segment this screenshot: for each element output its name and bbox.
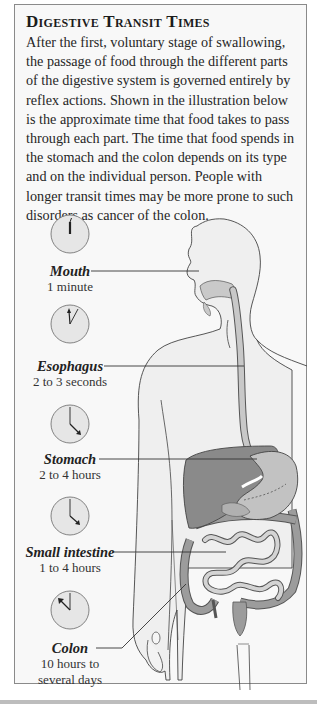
clock-icon: [50, 590, 90, 630]
stage-time: 1 to 4 hours: [20, 560, 120, 576]
stage-name: Small intestine: [20, 544, 120, 560]
stage-time: 2 to 3 seconds: [20, 374, 120, 390]
stage-name: Mouth: [20, 263, 120, 279]
stage-time: 1 minute: [20, 279, 120, 295]
clock-icon: [50, 214, 90, 254]
clock-icon: [50, 404, 90, 444]
stage-time: several days: [20, 672, 120, 688]
stage-time: 10 hours to: [20, 656, 120, 672]
stage-mouth: Mouth 1 minute: [20, 263, 120, 295]
stage-colon: Colon 10 hours to several days: [20, 640, 120, 688]
stage-time: 2 to 4 hours: [20, 467, 120, 483]
stage-name: Colon: [20, 640, 120, 656]
stage-esophagus: Esophagus 2 to 3 seconds: [20, 358, 120, 390]
stage-name: Esophagus: [20, 358, 120, 374]
clock-icon: [50, 304, 90, 344]
stage-small-intestine: Small intestine 1 to 4 hours: [20, 544, 120, 576]
stage-stomach: Stomach 2 to 4 hours: [20, 451, 120, 483]
digestive-system-illustration: [0, 0, 317, 714]
clock-icon: [50, 496, 90, 536]
stage-name: Stomach: [20, 451, 120, 467]
